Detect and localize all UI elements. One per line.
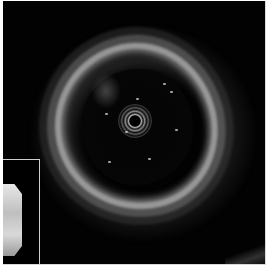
blood-speckle <box>105 113 108 115</box>
blood-speckle <box>170 91 173 93</box>
blood-speckle <box>175 129 178 131</box>
blood-speckle <box>136 98 139 100</box>
blood-speckle <box>148 158 151 160</box>
plaque-region <box>91 73 121 109</box>
imaging-catheter <box>118 104 152 138</box>
blood-speckle <box>108 161 111 163</box>
artifact-streak <box>225 244 265 264</box>
blood-speckle <box>163 83 166 85</box>
ultrasound-image <box>3 1 266 265</box>
blood-speckle <box>125 131 128 133</box>
inset-thumbnail <box>3 159 40 264</box>
inset-longitudinal-view <box>3 184 22 256</box>
